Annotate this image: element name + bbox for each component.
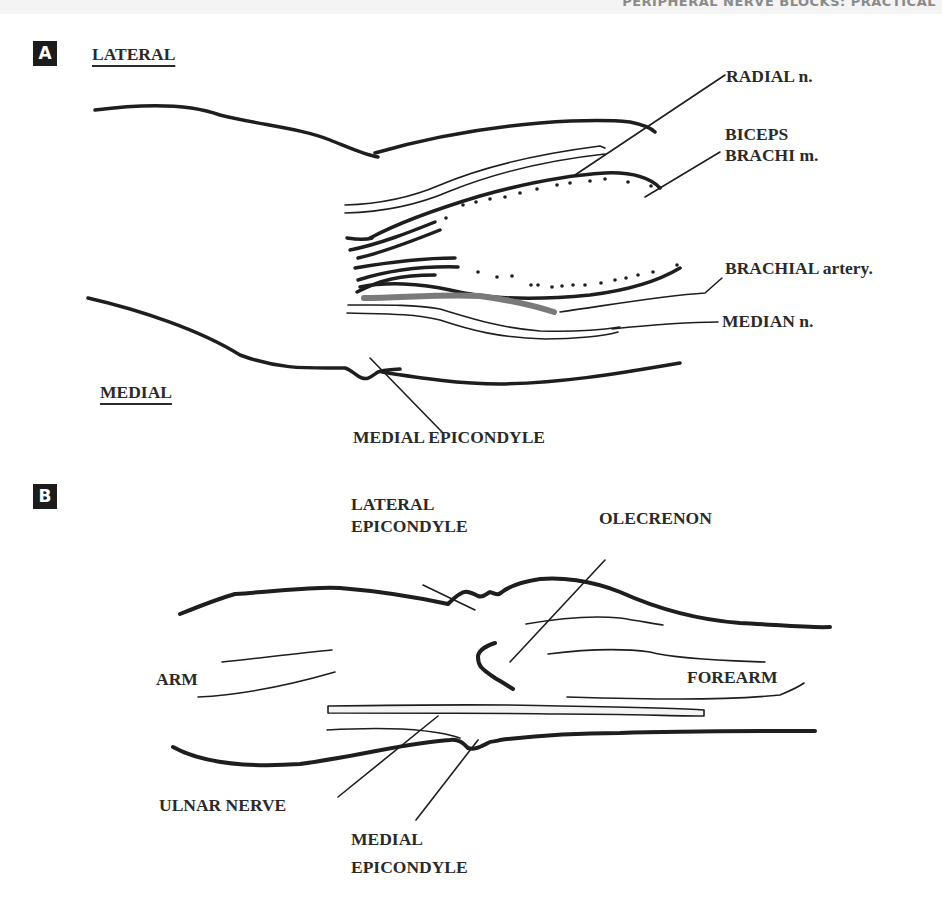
forearm-label: FOREARM [687,667,777,688]
lower-contour [173,731,815,765]
medial-epicondyle-label-b-line2: EPICONDYLE [351,857,468,878]
medial-epicondyle-label-b-line1: MEDIAL [351,829,423,850]
median-nerve-label: MEDIAN n. [722,311,813,332]
ulnar-nerve-label: ULNAR NERVE [159,795,286,816]
lateral-epicondyle-label-line1: LATERAL [351,494,434,515]
radial-nerve-label: RADIAL n. [726,66,813,87]
biceps-lower [360,268,680,298]
anatomy-diagram [0,0,942,905]
radial-nerve-2 [345,154,605,213]
lateral-arm-contour [95,106,378,157]
olecranon-label: OLECRENON [599,508,712,529]
biceps-dotted-outline [444,177,679,289]
panel-a-drawing [88,75,725,433]
biceps-upper [370,173,660,238]
medial-forearm-contour [382,363,680,384]
biceps-label-line2: BRACHI m. [725,145,818,166]
olecranon [478,643,513,689]
ulnar-nerve [328,705,704,716]
lateral-epicondyle-label-line2: EPICONDYLE [351,516,468,537]
biceps-label-line1: BICEPS [725,124,788,145]
lateral-orientation-label: LATERAL [92,44,175,65]
arm-label: ARM [156,669,198,690]
median-nerve-2 [347,313,618,339]
panel-a-badge: A [33,41,57,66]
brachial-artery-label: BRACHIAL artery. [725,258,873,279]
medial-orientation-label: MEDIAL [100,382,172,403]
upper-contour [180,578,830,627]
panel-b-badge: B [33,484,57,509]
lateral-forearm-contour [375,121,655,153]
medial-arm-contour [88,298,400,379]
medial-epicondyle-label-a: MEDIAL EPICONDYLE [353,427,545,448]
panel-b-drawing [173,560,830,820]
